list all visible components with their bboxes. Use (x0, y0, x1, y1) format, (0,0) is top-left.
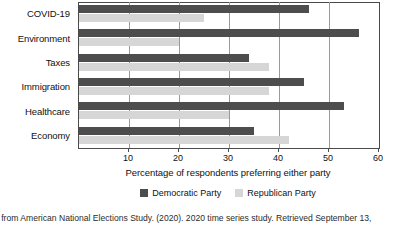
category-label-covid-19: COVID-19 (0, 9, 70, 19)
legend-item-democratic-party: Democratic Party (140, 188, 221, 198)
x-tick-10 (128, 148, 129, 152)
x-tick-label-50: 50 (323, 153, 333, 163)
legend-swatch-republican-party (235, 189, 243, 197)
bar-environment-republican-party (79, 38, 179, 46)
bar-covid-19-republican-party (79, 14, 204, 22)
bar-group-covid-19 (79, 2, 379, 26)
bar-environment-democratic-party (79, 29, 359, 37)
figure-container: COVID-19 Environment Taxes Immigration H… (0, 0, 396, 231)
bar-healthcare-democratic-party (79, 102, 344, 110)
bar-immigration-republican-party (79, 87, 269, 95)
chart-plot-wrapper: COVID-19 Environment Taxes Immigration H… (0, 0, 396, 150)
figure-caption: a from American National Elections Study… (0, 213, 396, 223)
bar-group-immigration (79, 75, 379, 99)
category-label-immigration: Immigration (0, 82, 70, 92)
bar-economy-democratic-party (79, 127, 254, 135)
plot-area (78, 2, 380, 149)
x-tick-label-30: 30 (223, 153, 233, 163)
chart-legend: Democratic Party Republican Party (78, 188, 378, 198)
x-axis-title: Percentage of respondents preferring eit… (78, 167, 378, 178)
legend-label-democratic-party: Democratic Party (152, 188, 221, 198)
bar-healthcare-republican-party (79, 111, 229, 119)
bar-economy-republican-party (79, 136, 289, 144)
bar-group-environment (79, 26, 379, 50)
x-tick-60 (378, 148, 379, 152)
category-axis-labels: COVID-19 Environment Taxes Immigration H… (0, 2, 74, 148)
x-tick-20 (178, 148, 179, 152)
category-label-taxes: Taxes (0, 58, 70, 68)
x-tick-40 (278, 148, 279, 152)
category-label-environment: Environment (0, 34, 70, 44)
legend-label-republican-party: Republican Party (247, 188, 316, 198)
category-label-economy: Economy (0, 131, 70, 141)
bar-group-economy (79, 124, 379, 148)
bar-immigration-democratic-party (79, 78, 304, 86)
x-tick-50 (328, 148, 329, 152)
legend-item-republican-party: Republican Party (235, 188, 316, 198)
legend-swatch-democratic-party (140, 189, 148, 197)
x-tick-label-60: 60 (373, 153, 383, 163)
bar-taxes-republican-party (79, 63, 269, 71)
bar-group-taxes (79, 51, 379, 75)
x-tick-label-40: 40 (273, 153, 283, 163)
bar-group-healthcare (79, 99, 379, 123)
x-tick-30 (228, 148, 229, 152)
category-label-healthcare: Healthcare (0, 107, 70, 117)
bar-covid-19-democratic-party (79, 5, 309, 13)
bar-taxes-democratic-party (79, 54, 249, 62)
x-tick-label-20: 20 (173, 153, 183, 163)
x-tick-label-10: 10 (123, 153, 133, 163)
